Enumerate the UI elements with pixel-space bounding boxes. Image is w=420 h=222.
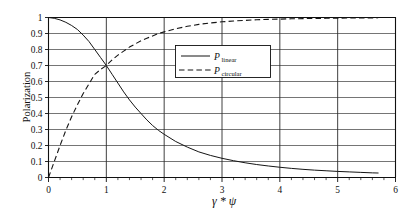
y-axis-tick-labels: 00.10.20.30.40.50.60.70.80.91: [31, 13, 43, 183]
chart-canvas: 0123456 00.10.20.30.40.50.60.70.80.91 P …: [0, 0, 420, 222]
x-axis-title: γ * ψ: [212, 194, 237, 208]
legend-label-p-linear: P: [213, 51, 220, 62]
x-axis-ticks: [49, 178, 396, 183]
y-tick-label: 0.3: [31, 125, 43, 135]
y-axis-title: Polarization: [21, 71, 32, 122]
x-tick-label: 4: [277, 185, 282, 195]
legend-label-p-circular: P: [213, 65, 220, 76]
y-tick-label: 0.1: [31, 157, 43, 167]
chart-legend: P linear P circular: [176, 46, 271, 78]
x-tick-label: 0: [46, 185, 51, 195]
x-tick-label: 1: [104, 185, 109, 195]
y-tick-label: 0.5: [31, 93, 43, 103]
x-tick-label: 5: [335, 185, 340, 195]
legend-sublabel-p-linear: linear: [222, 56, 238, 63]
y-tick-label: 0.4: [31, 109, 43, 119]
polarization-chart-figure: 0123456 00.10.20.30.40.50.60.70.80.91 P …: [0, 0, 420, 222]
y-tick-label: 0.6: [31, 77, 43, 87]
y-tick-label: 0.7: [31, 61, 43, 71]
series-p-linear-curve: [49, 18, 379, 174]
y-tick-label: 0.9: [31, 29, 43, 39]
y-tick-label: 0: [38, 173, 43, 183]
x-tick-label: 6: [393, 185, 398, 195]
legend-sublabel-p-circular: circular: [222, 70, 243, 77]
x-tick-label: 2: [162, 185, 167, 195]
y-tick-label: 0.8: [31, 45, 43, 55]
y-tick-label: 1: [38, 13, 43, 23]
y-tick-label: 0.2: [31, 141, 43, 151]
